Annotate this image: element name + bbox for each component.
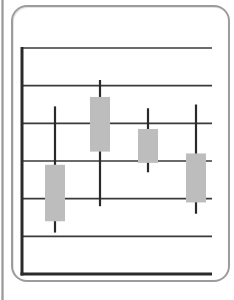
candlestick — [186, 105, 206, 214]
candlesticks — [45, 80, 206, 233]
candle-body — [45, 165, 65, 222]
candlestick — [45, 106, 65, 232]
chart-icon-illustration — [0, 0, 234, 300]
candlestick-chart — [0, 0, 234, 300]
candle-body — [186, 153, 206, 202]
candle-body — [138, 129, 158, 163]
candle-body — [90, 97, 110, 152]
candlestick — [138, 108, 158, 172]
candlestick — [90, 80, 110, 206]
